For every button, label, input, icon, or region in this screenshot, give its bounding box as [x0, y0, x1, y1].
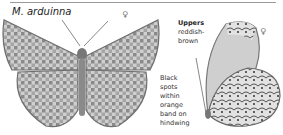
butterfly-upperside-illustration: [0, 18, 162, 134]
butterfly-underside-illustration: [186, 18, 283, 135]
header-rule: [10, 2, 276, 3]
species-title: M. arduinna: [12, 6, 72, 17]
